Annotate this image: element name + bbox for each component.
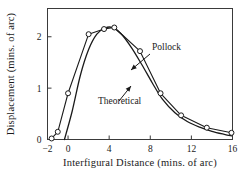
x-axis-tick-labels: −20481216	[42, 144, 237, 154]
chart-figure: −20481216 012 Pollock Theoretical Interf…	[0, 0, 248, 174]
data-point-marker	[179, 113, 184, 118]
data-point-marker	[66, 91, 71, 96]
y-tick-label: 2	[37, 32, 42, 42]
data-point-marker	[55, 129, 60, 134]
x-axis-title: Interfigural Distance (mins. of arc)	[63, 157, 217, 169]
x-tick-label: 16	[228, 144, 238, 154]
x-tick-label: 0	[66, 144, 71, 154]
data-point-marker	[102, 27, 107, 32]
data-point-marker	[204, 125, 209, 130]
data-point-marker	[49, 136, 54, 141]
y-axis-tick-labels: 012	[37, 32, 42, 145]
data-point-marker	[112, 25, 117, 30]
data-point-marker	[158, 91, 163, 96]
data-point-marker	[86, 32, 91, 37]
y-axis-title: Displacement (mins. of arc)	[5, 12, 17, 135]
data-point-marker	[138, 49, 143, 54]
annotation-label-pollock: Pollock	[152, 42, 181, 52]
y-tick-label: 1	[37, 84, 42, 94]
x-tick-label: 8	[148, 144, 153, 154]
data-point-marker	[229, 130, 234, 135]
annotation-label-theoretical: Theoretical	[98, 96, 142, 106]
y-tick-label: 0	[37, 135, 42, 145]
x-tick-label: 4	[107, 144, 112, 154]
displacement-vs-interfigural-distance-chart: −20481216 012 Pollock Theoretical Interf…	[0, 0, 248, 174]
x-tick-label: 12	[187, 144, 197, 154]
x-tick-label: −2	[42, 144, 52, 154]
